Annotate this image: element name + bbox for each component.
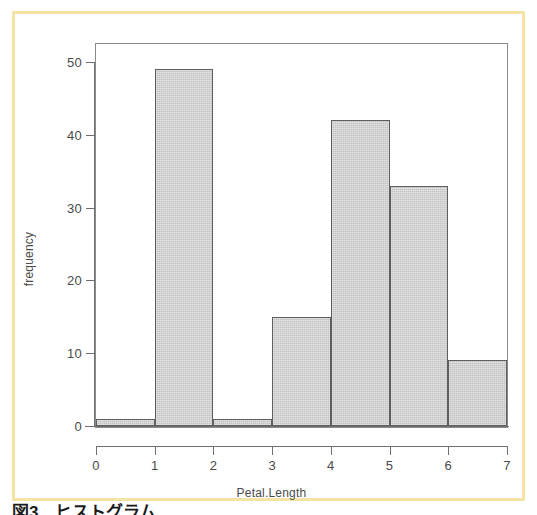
y-axis-line xyxy=(94,62,95,426)
y-axis-tick-label: 20 xyxy=(67,273,82,288)
x-axis-tick-label: 6 xyxy=(445,458,453,473)
zero-baseline xyxy=(85,426,509,427)
x-axis-tick-label: 1 xyxy=(151,458,159,473)
histogram-plot: frequency 01020304050 Petal.Length 01234… xyxy=(15,14,528,504)
x-axis-tick-label: 0 xyxy=(92,458,100,473)
y-axis-tick xyxy=(86,208,95,209)
y-axis-tick xyxy=(86,280,95,281)
x-axis-tick xyxy=(390,446,391,455)
y-axis-tick-label: 50 xyxy=(67,55,82,70)
x-axis-title: Petal.Length xyxy=(15,486,528,500)
y-axis-tick xyxy=(86,62,95,63)
histogram-bar xyxy=(96,419,155,426)
x-axis-tick xyxy=(213,446,214,455)
x-axis-tick-label: 4 xyxy=(327,458,335,473)
x-axis-tick-label: 5 xyxy=(386,458,394,473)
x-axis: Petal.Length 01234567 xyxy=(15,428,528,504)
x-axis-tick xyxy=(331,446,332,455)
bar-series xyxy=(96,44,507,427)
y-axis-tick xyxy=(86,135,95,136)
figure-frame: frequency 01020304050 Petal.Length 01234… xyxy=(12,11,525,501)
x-axis-line xyxy=(96,446,507,447)
figure-caption: 図3 ヒストグラム xyxy=(12,503,312,515)
y-axis-tick-label: 10 xyxy=(67,346,82,361)
x-axis-tick xyxy=(272,446,273,455)
y-axis-tick-label: 30 xyxy=(67,200,82,215)
histogram-bar xyxy=(272,317,331,426)
histogram-bar xyxy=(390,186,449,426)
x-axis-tick xyxy=(155,446,156,455)
histogram-bar xyxy=(155,69,214,426)
x-axis-tick-label: 3 xyxy=(268,458,276,473)
y-axis-tick xyxy=(86,353,95,354)
histogram-bar xyxy=(331,120,390,426)
histogram-bar xyxy=(213,419,272,426)
x-axis-tick xyxy=(507,446,508,455)
x-axis-tick xyxy=(96,446,97,455)
x-axis-tick-label: 7 xyxy=(503,458,511,473)
x-axis-tick xyxy=(448,446,449,455)
histogram-bar xyxy=(448,360,507,426)
y-axis-tick-label: 40 xyxy=(67,127,82,142)
x-axis-tick-label: 2 xyxy=(210,458,218,473)
y-axis-title: frequency xyxy=(22,232,36,287)
